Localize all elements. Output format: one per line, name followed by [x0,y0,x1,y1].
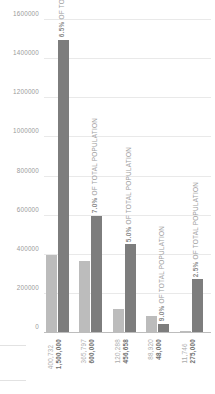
bar-target[interactable] [192,279,203,333]
x-label-target: 48,000 [155,339,162,360]
cropped-rule-top [0,345,26,346]
x-label-target: 456,658 [122,339,129,364]
bar-pair [44,20,77,333]
bar-group: 7.0% OF TOTAL POPULATION [77,20,110,333]
x-label-target: 275,000 [189,339,196,364]
y-tick-label: 800000 [17,166,39,173]
y-tick-label: 1600000 [13,10,39,17]
bar-pair [178,20,211,333]
y-tick-label: 1400000 [13,49,39,56]
y-tick-label: 0 [35,323,39,330]
x-label-actual: 365,797 [80,339,87,364]
percent-annotation: 5.0% OF TOTAL POPULATION [125,147,132,242]
bar-group: 5.0% OF TOTAL POPULATION [111,20,144,333]
percent-annotation: 7.0% OF TOTAL POPULATION [91,118,98,213]
bar-target[interactable] [91,216,102,333]
bar-actual[interactable] [46,255,57,333]
bar-actual[interactable] [79,261,90,333]
percent-annotation: 9.0% OF TOTAL POPULATION [158,226,165,321]
percent-annotation: 6.5% OF TOTAL POPULATION [58,0,65,38]
bar-group: 6.5% OF TOTAL POPULATION [44,20,77,333]
x-label-target: 600,000 [88,339,95,364]
y-tick-label: 1000000 [13,127,39,134]
x-label-group: 400,7321,500,000 [44,339,77,394]
y-tick-label: 400000 [17,244,39,251]
y-tick-label: 200000 [17,283,39,290]
bar-groups: 6.5% OF TOTAL POPULATION7.0% OF TOTAL PO… [44,20,211,333]
plot-area: 0200000400000600000800000100000012000001… [44,20,211,333]
y-tick-label: 600000 [17,205,39,212]
percent-annotation: 2.5% OF TOTAL POPULATION [192,182,199,277]
x-label-actual: 400,732 [47,339,54,369]
x-label-target: 1,500,000 [55,339,62,369]
bar-actual[interactable] [146,316,157,333]
x-label-actual: 11,746 [181,339,188,364]
x-axis-value-labels: 400,7321,500,000365,797600,000120,288456… [44,339,211,394]
bar-chart: 0200000400000600000800000100000012000001… [0,0,215,394]
x-label-group: 365,797600,000 [77,339,110,394]
bar-target[interactable] [58,40,69,333]
cropped-rule-bottom [0,380,26,381]
x-label-group: 88,92048,000 [144,339,177,394]
y-tick-label: 1200000 [13,88,39,95]
x-axis-line [44,332,211,333]
x-label-actual: 88,920 [147,339,154,360]
bar-group: 9.0% OF TOTAL POPULATION [144,20,177,333]
x-label-group: 11,746275,000 [178,339,211,394]
x-label-group: 120,288456,658 [111,339,144,394]
x-label-actual: 120,288 [114,339,121,364]
bar-target[interactable] [125,244,136,333]
bar-group: 2.5% OF TOTAL POPULATION [178,20,211,333]
bar-actual[interactable] [113,309,124,333]
